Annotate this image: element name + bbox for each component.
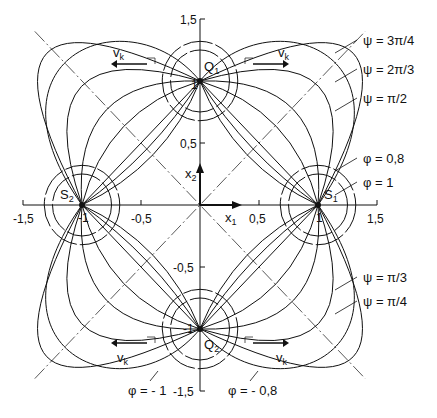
velocity-label: vk xyxy=(113,45,125,62)
velocity-arrowhead-icon xyxy=(283,339,289,347)
y-tick-label: 0,5 xyxy=(180,137,197,151)
streamline-psi xyxy=(200,69,333,205)
legend-label: φ = - 0,8 xyxy=(228,383,277,398)
y-tick-label: -1 xyxy=(183,322,194,336)
y-tick-label: 1 xyxy=(191,78,198,92)
legend-leader-line xyxy=(250,371,258,381)
y-tick-label: 1,5 xyxy=(180,13,197,27)
velocity-arrowhead-icon xyxy=(111,339,117,347)
singular-point xyxy=(197,326,203,332)
y-tick-label: -0,5 xyxy=(173,261,194,275)
x-tick-label: 1,5 xyxy=(367,212,384,226)
point-label: Q1 xyxy=(204,59,219,76)
singular-point xyxy=(79,202,85,208)
x1-axis-label: x1 xyxy=(225,210,237,227)
legend-label: ψ = 3π/4 xyxy=(363,33,414,48)
legend-label: φ = 1 xyxy=(363,175,393,190)
legend-label: ψ = π/4 xyxy=(363,294,407,309)
streamline-psi xyxy=(38,43,200,205)
x2-arrowhead-icon xyxy=(196,163,204,173)
point-label: Q2 xyxy=(204,337,219,354)
velocity-arrowhead-icon xyxy=(111,60,117,68)
x-tick-label: -1 xyxy=(78,211,89,225)
point-label: S1 xyxy=(324,187,338,204)
singular-point xyxy=(197,78,203,84)
x-tick-label: 0,5 xyxy=(249,212,266,226)
x-tick-label: -0,5 xyxy=(131,212,152,226)
legend-label: ψ = π/3 xyxy=(363,270,407,285)
velocity-label: vk xyxy=(117,350,129,367)
legend-leader-line xyxy=(335,40,357,53)
velocity-label: vk xyxy=(276,350,288,367)
singular-point xyxy=(315,202,321,208)
streamline-psi xyxy=(200,43,362,205)
legend-label: φ = 0,8 xyxy=(363,151,404,166)
streamline-psi xyxy=(200,205,333,341)
legend-leader-line xyxy=(335,69,357,82)
x-tick-label: -1,5 xyxy=(13,212,34,226)
x2-axis-label: x2 xyxy=(185,166,197,183)
quadrupole-flow-diagram: x1x2-1,5-0,50,51,51,50,5-0,5-1,51-11-1 S… xyxy=(0,0,437,418)
legend-label: ψ = 2π/3 xyxy=(363,62,414,77)
legend-leader-line xyxy=(150,371,158,381)
y-tick-label: -1,5 xyxy=(173,385,194,399)
x-tick-label: 1 xyxy=(316,211,323,225)
legend-label: φ = - 1 xyxy=(128,383,166,398)
x1-arrowhead-icon xyxy=(232,201,242,209)
coordinate-axes: x1x2-1,5-0,50,51,51,50,5-0,5-1,51-11-1 xyxy=(13,13,384,399)
legend-leader-line xyxy=(335,182,357,195)
legend-label: ψ = π/2 xyxy=(363,91,407,106)
